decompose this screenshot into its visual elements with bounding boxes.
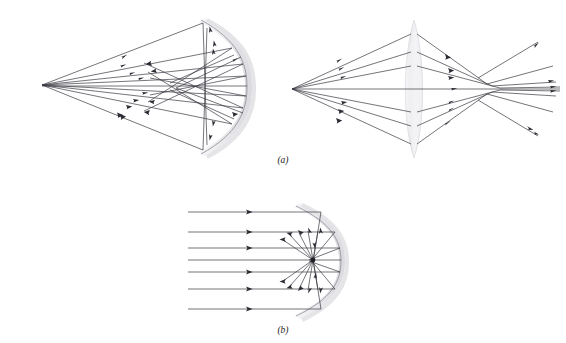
refracted-ray-arrowheads-lens <box>445 54 457 125</box>
parallel-ray-arrowheads <box>246 209 253 311</box>
incident-ray-arrowheads-left <box>117 55 148 120</box>
diverging-ray-arrowheads-lens <box>527 42 556 134</box>
diagram-concave-mirror-point-source <box>42 18 254 157</box>
reflected-ray-arrowheads-left <box>144 27 238 141</box>
incident-rays-left <box>42 23 246 150</box>
diagram-concave-mirror-parallel-rays <box>188 203 347 320</box>
panel-a-label: (a) <box>277 155 288 166</box>
figure-canvas: (a) <box>0 0 566 343</box>
focal-point-bottom <box>311 258 316 263</box>
diagram-converging-lens-point-source <box>292 20 560 158</box>
panel-b-label: (b) <box>277 325 288 336</box>
optics-figure: (a) <box>0 0 566 343</box>
parallel-incident-rays <box>188 212 340 309</box>
